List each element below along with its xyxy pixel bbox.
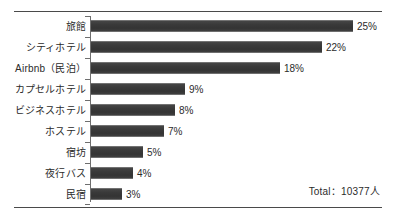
bar — [91, 21, 353, 32]
bar — [91, 147, 143, 158]
bar-row: Airbnb（民泊） 18% — [0, 58, 394, 78]
category-label: 夜行バス — [45, 168, 86, 179]
category-label: カプセルホテル — [15, 84, 86, 95]
axis-tick — [85, 16, 90, 17]
bar-value-label: 25% — [357, 21, 377, 32]
bar — [91, 189, 122, 200]
bar — [91, 126, 164, 137]
bar-row: 旅館 25% — [0, 16, 394, 36]
bottom-rule — [14, 207, 382, 208]
bar — [91, 84, 185, 95]
bar-value-label: 18% — [284, 63, 304, 74]
category-label: ホステル — [45, 126, 86, 137]
bar-row: カプセルホテル 9% — [0, 79, 394, 99]
axis-tick — [85, 184, 90, 185]
bar-value-label: 8% — [179, 105, 193, 116]
bar-value-label: 22% — [326, 42, 346, 53]
bar-value-label: 9% — [189, 84, 203, 95]
axis-tick — [85, 163, 90, 164]
axis-tick — [85, 142, 90, 143]
category-label: シティホテル — [26, 42, 86, 53]
axis-tick — [85, 58, 90, 59]
bar-row: シティホテル 22% — [0, 37, 394, 57]
axis-tick — [85, 204, 90, 205]
bar-value-label: 3% — [126, 189, 140, 200]
category-label: ビジネスホテル — [15, 105, 86, 116]
bar-row: ホステル 7% — [0, 121, 394, 141]
plot-area: 旅館 25% シティホテル 22% Airbnb（民泊） 18% カプセルホテル… — [0, 16, 394, 204]
category-label: 宿坊 — [66, 147, 86, 158]
bar-row: 宿坊 5% — [0, 142, 394, 162]
top-rule — [14, 11, 382, 12]
bar-value-label: 7% — [168, 126, 182, 137]
category-label: 民宿 — [66, 189, 86, 200]
bar-row: ビジネスホテル 8% — [0, 100, 394, 120]
category-label: 旅館 — [66, 21, 86, 32]
total-annotation: Total：10377人 — [309, 186, 380, 198]
bar-chart-figure: 旅館 25% シティホテル 22% Airbnb（民泊） 18% カプセルホテル… — [0, 0, 394, 220]
bar-value-label: 5% — [147, 147, 161, 158]
bar — [91, 63, 280, 74]
bar-value-label: 4% — [137, 168, 151, 179]
category-label: Airbnb（民泊） — [15, 63, 86, 74]
bar-row: 夜行バス 4% — [0, 163, 394, 183]
axis-tick — [85, 121, 90, 122]
axis-tick — [85, 79, 90, 80]
bar — [91, 105, 175, 116]
bar — [91, 42, 322, 53]
axis-tick — [85, 100, 90, 101]
axis-tick — [85, 37, 90, 38]
bar — [91, 168, 133, 179]
